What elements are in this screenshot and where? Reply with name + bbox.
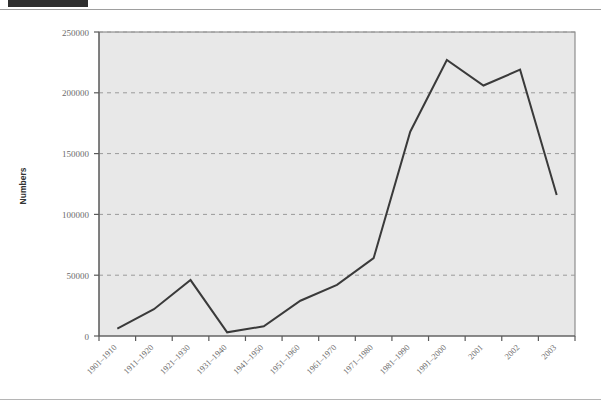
chart-canvas: 050000100000150000200000250000 1901–1910…	[0, 12, 601, 398]
x-axis-category-label: 1951–1960	[268, 342, 302, 376]
header-black-block	[8, 0, 88, 7]
x-axis-category-label: 1921–1930	[158, 342, 192, 376]
x-axis-category-label: 1931–1940	[194, 342, 228, 376]
y-axis-tick-label: 250000	[62, 28, 90, 38]
y-axis: 050000100000150000200000250000	[62, 28, 99, 342]
x-axis-category-label: 1911–1920	[121, 342, 155, 376]
x-axis-category-labels: 1901–19101911–19201921–19301931–19401941…	[85, 342, 559, 376]
line-chart-figure: 050000100000150000200000250000 1901–1910…	[0, 12, 601, 398]
x-axis-category-label: 2002	[502, 342, 521, 361]
x-axis-category-label: 1971–1980	[341, 342, 375, 376]
x-axis-category-label: 1941–1950	[231, 342, 265, 376]
y-axis-tick-label: 100000	[62, 210, 90, 220]
y-axis-tick-label: 200000	[62, 88, 90, 98]
footer-divider-rule	[0, 399, 601, 400]
y-axis-tick-label: 50000	[67, 271, 90, 281]
x-axis-category-label: 2001	[466, 342, 485, 361]
page-header-strip	[0, 0, 601, 9]
y-axis-title: Numbers	[18, 167, 28, 204]
x-axis-category-label: 1961–1970	[304, 342, 338, 376]
x-axis-category-label: 1991–2000	[414, 342, 448, 376]
x-axis-category-label: 2003	[539, 342, 558, 361]
y-axis-tick-label: 0	[85, 332, 90, 342]
header-faint-text	[96, 0, 296, 7]
x-axis-category-label: 1901–1910	[85, 342, 119, 376]
x-axis-category-label: 1981–1990	[378, 342, 412, 376]
header-divider-rule	[0, 9, 601, 10]
y-axis-tick-label: 150000	[62, 149, 90, 159]
x-axis-ticks	[99, 336, 575, 341]
